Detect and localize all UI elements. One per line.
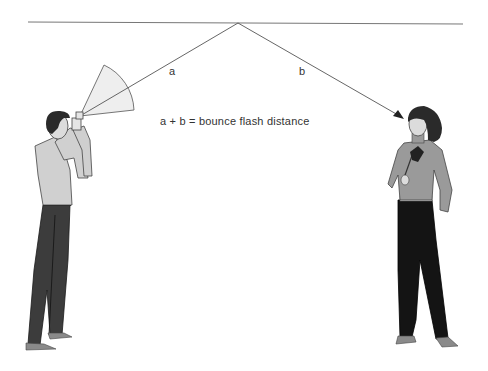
flash-cone [80, 65, 134, 116]
ceiling-line [28, 22, 463, 24]
equation-caption: a + b = bounce flash distance [160, 116, 310, 127]
photographer-figure [26, 111, 92, 350]
path-a-label: a [169, 66, 175, 77]
bounce-flash-diagram: a b a + b = bounce flash distance [0, 0, 488, 371]
subject-figure [388, 106, 458, 347]
path-b-label: b [299, 66, 305, 77]
path-b-line [238, 23, 398, 115]
arrowhead-icon [393, 110, 404, 119]
